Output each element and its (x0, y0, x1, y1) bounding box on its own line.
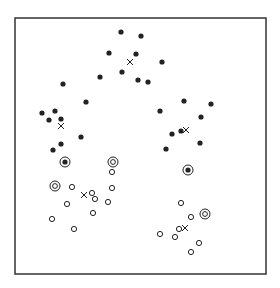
class-hollow-point (49, 216, 54, 221)
class-filled-point (159, 59, 164, 64)
class-hollow-point (157, 231, 162, 236)
support-hollow-point (50, 181, 60, 191)
class-filled-point (145, 79, 150, 84)
class-filled-point (133, 51, 138, 56)
class-filled-point (208, 101, 213, 106)
class-hollow-point (69, 184, 74, 189)
class-filled-point (138, 33, 143, 38)
class-filled-point (58, 116, 63, 121)
class-filled-point (58, 141, 63, 146)
class-hollow-point (178, 200, 183, 205)
class-hollow-point (172, 234, 177, 239)
class-filled-point (97, 74, 102, 79)
class-hollow-point (188, 214, 193, 219)
class-filled-point (118, 29, 123, 34)
support-filled-point (60, 157, 70, 167)
class-filled-point (78, 134, 83, 139)
support-hollow-point (108, 157, 118, 167)
class-filled-point (106, 50, 111, 55)
class-filled-point (169, 131, 174, 136)
class-filled-point (197, 140, 202, 145)
class-hollow-point (64, 201, 69, 206)
class-hollow-point (109, 169, 114, 174)
centroids-point (58, 123, 64, 129)
class-filled-point (60, 81, 65, 86)
class-hollow-point (89, 190, 94, 195)
class-filled-point (83, 99, 88, 104)
class-filled-point (163, 146, 168, 151)
support-hollow-point (200, 209, 210, 219)
class-filled-point (52, 108, 57, 113)
class-filled-point (39, 110, 44, 115)
class-hollow-point (188, 249, 193, 254)
class-hollow-point (71, 226, 76, 231)
support-filled-point (183, 165, 193, 175)
centroids-point (127, 59, 133, 65)
class-filled-point (181, 98, 186, 103)
centroids-point (183, 127, 189, 133)
class-filled-point (135, 77, 140, 82)
class-filled-point (119, 69, 124, 74)
class-hollow-point (92, 196, 97, 201)
centroids-point (182, 225, 188, 231)
class-filled-point (46, 117, 51, 122)
scatter-plot (0, 0, 280, 288)
plot-frame (15, 18, 266, 274)
class-hollow-point (176, 226, 181, 231)
centroids-point (81, 192, 87, 198)
class-hollow-point (90, 210, 95, 215)
class-filled-point (50, 147, 55, 152)
class-hollow-point (109, 185, 114, 190)
class-hollow-point (105, 199, 110, 204)
class-filled-point (198, 114, 203, 119)
class-filled-point (157, 108, 162, 113)
markers-layer (39, 29, 213, 254)
class-hollow-point (196, 240, 201, 245)
